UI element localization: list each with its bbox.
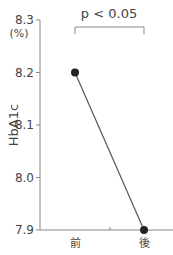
series-line xyxy=(75,73,144,231)
x-tick-label: 前 xyxy=(70,236,81,250)
y-tick-label: 8.3 xyxy=(15,13,34,27)
data-series xyxy=(71,69,148,235)
data-point-marker xyxy=(71,69,79,77)
x-axis: 前後 xyxy=(40,227,173,250)
y-tick-label: 7.9 xyxy=(15,223,34,237)
y-tick-label: 8.0 xyxy=(15,171,34,185)
data-point-marker xyxy=(140,226,148,234)
y-unit-label: (%) xyxy=(9,27,28,40)
y-axis-label: HbA1c xyxy=(6,104,21,146)
x-tick-label: 後 xyxy=(139,236,150,250)
significance-bracket: p < 0.05 xyxy=(75,6,144,34)
y-tick-label: 8.2 xyxy=(15,66,34,80)
p-value-label: p < 0.05 xyxy=(81,6,137,21)
hba1c-chart: 7.98.08.18.28.3 前後 (%) HbA1c p < 0.05 xyxy=(0,0,173,255)
